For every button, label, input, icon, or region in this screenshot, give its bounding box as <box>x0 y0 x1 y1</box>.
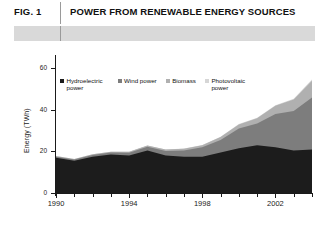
legend-label: Hydroelectric power <box>67 77 109 91</box>
legend-item: Wind power <box>118 77 157 84</box>
x-axis-line <box>55 193 313 194</box>
y-tick-label: 20 <box>25 147 47 154</box>
x-tick-minor <box>221 194 222 197</box>
x-tick-minor <box>74 194 75 197</box>
figure-number: FIG. 1 <box>14 6 42 17</box>
x-tick-minor <box>93 194 94 197</box>
x-tick-major <box>275 194 276 198</box>
x-tick-major <box>202 194 203 198</box>
x-tick-minor <box>111 194 112 197</box>
y-tick-label: 0 <box>25 189 47 196</box>
legend-item: Biomass <box>166 77 196 84</box>
legend-swatch-icon <box>205 79 209 83</box>
figure-card: FIG. 1 POWER FROM RENEWABLE ENERGY SOURC… <box>0 0 329 225</box>
legend-label: Biomass <box>172 77 196 84</box>
x-tick-minor <box>166 194 167 197</box>
x-tick-minor <box>239 194 240 197</box>
x-tick-minor <box>257 194 258 197</box>
x-tick-major <box>56 194 57 198</box>
header-divider <box>60 2 61 24</box>
x-tick-label: 1994 <box>109 199 149 208</box>
x-tick-minor <box>184 194 185 197</box>
x-tick-minor <box>147 194 148 197</box>
y-tick-label: 60 <box>25 64 47 71</box>
x-tick-minor <box>312 194 313 197</box>
legend-item: Photovoltaic power <box>205 77 254 91</box>
legend-label: Wind power <box>124 77 157 84</box>
x-tick-label: 1990 <box>36 199 76 208</box>
y-axis-title: Energy (TWh) <box>23 108 30 153</box>
legend-swatch-icon <box>118 79 122 83</box>
legend-swatch-icon <box>60 79 64 83</box>
figure-title: POWER FROM RENEWABLE ENERGY SOURCES <box>70 6 296 17</box>
y-tick-label: 40 <box>25 106 47 113</box>
chart-legend: Hydroelectric powerWind powerBiomassPhot… <box>60 77 253 91</box>
x-tick-minor <box>294 194 295 197</box>
x-tick-major <box>129 194 130 198</box>
legend-swatch-icon <box>166 79 170 83</box>
x-tick-label: 2002 <box>255 199 295 208</box>
x-tick-label: 1998 <box>182 199 222 208</box>
legend-label: Photovoltaic power <box>211 77 253 91</box>
header-band-divider <box>60 26 61 41</box>
figure-header: FIG. 1 POWER FROM RENEWABLE ENERGY SOURC… <box>0 0 329 26</box>
chart-area: Energy (TWh) 0204060 1990199419982002 Hy… <box>14 41 315 218</box>
legend-item: Hydroelectric power <box>60 77 109 91</box>
